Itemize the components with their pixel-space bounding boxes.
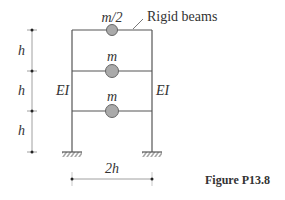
mass-label-roof: m/2: [102, 10, 123, 25]
annotation-rigid-beams: Rigid beams: [147, 9, 217, 24]
figure-caption: Figure P13.8: [205, 173, 270, 187]
mass-label-level-1: m: [107, 89, 117, 104]
left-column-stiffness: EI: [55, 83, 71, 98]
mass-level-1: [106, 105, 119, 118]
story-height-1: h: [18, 123, 25, 138]
right-column-stiffness: EI: [155, 83, 171, 98]
frame-diagram: m/2 m m Rigid beams EI EI h h h 2h Figur…: [0, 0, 285, 200]
left-fixed-support-icon: [62, 152, 82, 157]
mass-level-2: [106, 65, 119, 78]
story-height-3: h: [18, 43, 25, 58]
mass-label-level-2: m: [107, 49, 117, 64]
bay-width-label: 2h: [105, 161, 119, 176]
story-height-2: h: [18, 83, 25, 98]
annotation-leader: [133, 19, 143, 29]
mass-roof: [107, 25, 118, 36]
right-fixed-support-icon: [142, 152, 162, 157]
